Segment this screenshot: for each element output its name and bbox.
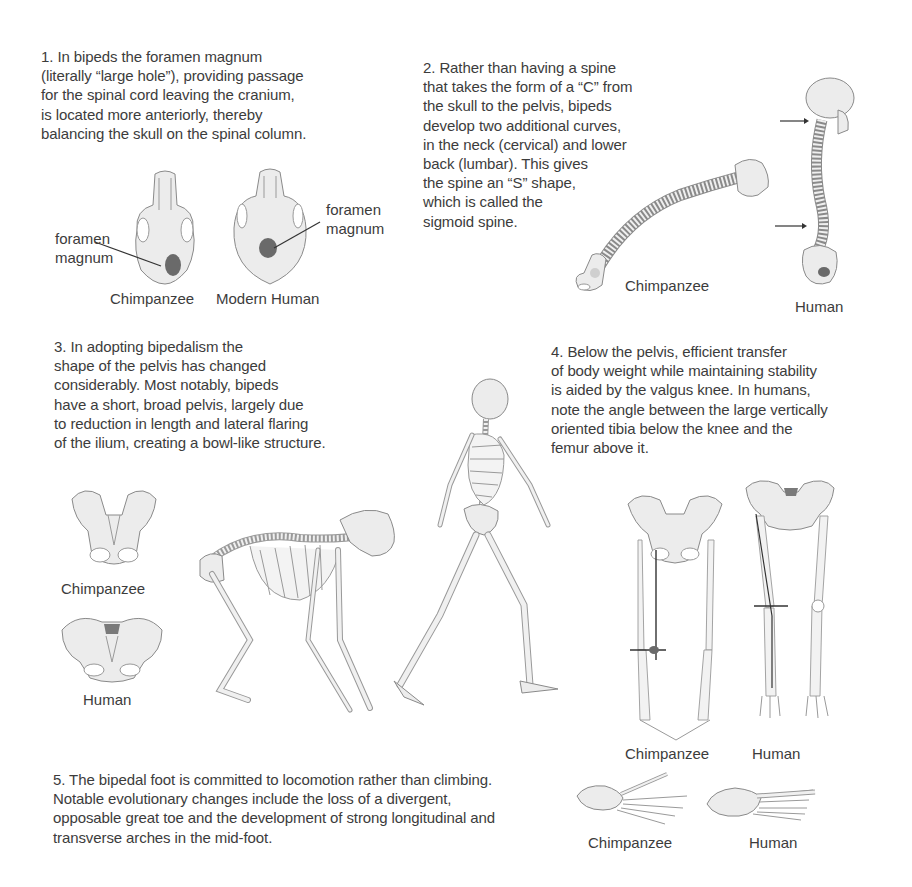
- human-skeleton-icon: [380, 375, 560, 715]
- section-4-human-caption: Human: [752, 745, 800, 762]
- section-3-chimp-caption: Chimpanzee: [61, 580, 145, 597]
- chimpanzee-pelvis-icon: [66, 485, 162, 573]
- section-4-chimp-caption: Chimpanzee: [625, 745, 709, 762]
- section-4-text: 4. Below the pelvis, efficient transfer …: [551, 342, 828, 457]
- section-3-human-caption: Human: [83, 691, 131, 708]
- chimpanzee-legs-icon: [620, 490, 730, 730]
- section-2-chimp-caption: Chimpanzee: [625, 277, 709, 294]
- section-5-text: 5. The bipedal foot is committed to loco…: [53, 770, 495, 847]
- chimpanzee-spine-icon: [570, 155, 770, 295]
- section-1-chimp-caption: Chimpanzee: [110, 290, 194, 307]
- section-5-chimp-caption: Chimpanzee: [588, 834, 672, 851]
- chimpanzee-foot-icon: [575, 770, 695, 830]
- lumbar-arrow-icon: [775, 222, 809, 230]
- human-pelvis-icon: [58, 612, 166, 684]
- chimpanzee-skull-icon: [125, 170, 205, 290]
- section-1-text: 1. In bipeds the foramen magnum (literal…: [41, 47, 306, 143]
- pointer-line: [272, 218, 322, 250]
- human-foot-icon: [705, 780, 825, 830]
- chimpanzee-skeleton-icon: [190, 490, 410, 720]
- human-legs-icon: [740, 476, 840, 726]
- cervical-arrow-icon: [780, 117, 810, 125]
- human-foramen-label: foramen magnum: [326, 200, 384, 238]
- human-spine-icon: [800, 70, 880, 290]
- section-5-human-caption: Human: [749, 834, 797, 851]
- section-1-human-caption: Modern Human: [216, 290, 319, 307]
- chimp-foramen-label: foramen magnum: [55, 229, 113, 267]
- section-2-human-caption: Human: [795, 298, 843, 315]
- section-3-text: 3. In adopting bipedalism the shape of t…: [54, 337, 325, 452]
